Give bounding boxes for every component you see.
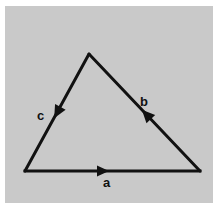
vector-triangle-diagram: a b c	[0, 0, 221, 209]
vector-b-label: b	[140, 94, 148, 109]
vector-c-label: c	[37, 108, 44, 123]
vector-a-label: a	[103, 175, 111, 190]
vector-c-arrowhead-icon	[49, 104, 66, 121]
